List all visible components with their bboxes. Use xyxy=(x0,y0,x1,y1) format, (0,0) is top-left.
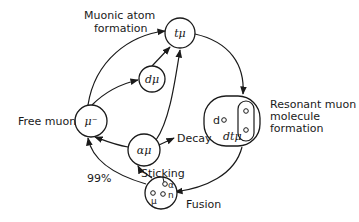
fusion-n: n xyxy=(168,190,174,200)
edge-alphamu-to-decay xyxy=(159,138,174,145)
label-fusion: Fusion xyxy=(186,198,221,211)
fusion-alpha: α xyxy=(168,180,174,190)
tmu-symbol: tμ xyxy=(174,27,186,40)
fusion-mu: μ xyxy=(151,196,157,206)
node-alphamu: αμ xyxy=(128,134,160,166)
node-tmu: tμ xyxy=(165,18,195,48)
alphamu-symbol: αμ xyxy=(137,144,152,157)
node-resonant-molecule: d dtμ xyxy=(204,96,260,146)
label-99-percent: 99% xyxy=(87,172,111,185)
dmu-symbol: dμ xyxy=(145,73,159,86)
label-resonant-3: formation xyxy=(270,122,323,135)
label-free-muon: Free muon xyxy=(18,115,76,128)
edge-dmu-to-tmu xyxy=(152,47,170,66)
node-dmu: dμ xyxy=(139,66,165,92)
muon-catalyzed-fusion-diagram: tμ dμ μ⁻ αμ α μ n d dtμ Muonic atom form… xyxy=(0,0,359,222)
label-decay: Decay xyxy=(177,132,212,145)
molecule-dt-label: dtμ xyxy=(223,130,242,143)
edge-alphamu-to-tmu xyxy=(156,50,180,140)
molecule-d-label: d xyxy=(213,114,220,127)
label-sticking: Sticking xyxy=(141,167,185,180)
edge-alphamu-to-free-muon xyxy=(95,137,128,147)
edge-free-muon-to-dmu xyxy=(92,80,138,105)
node-fusion: α μ n xyxy=(145,177,177,209)
free-muon-symbol: μ⁻ xyxy=(85,115,98,128)
label-muonic-atom: Muonic atom xyxy=(84,9,155,22)
node-free-muon: μ⁻ xyxy=(75,105,107,137)
label-formation: formation xyxy=(94,22,147,35)
edge-molecule-to-fusion xyxy=(175,147,242,192)
edge-tmu-to-molecule xyxy=(195,34,243,94)
